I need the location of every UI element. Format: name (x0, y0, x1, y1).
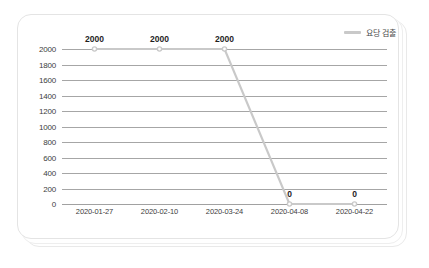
y-tick-label: 1200 (39, 107, 56, 116)
line-chart: 요당 검출 2000180016001400120010008006004002… (0, 0, 429, 268)
data-point-marker (222, 47, 226, 51)
x-tick-label: 2020-04-08 (271, 207, 308, 216)
x-tick-label: 2020-04-22 (336, 207, 373, 216)
x-tick-label: 2020-03-24 (206, 207, 243, 216)
data-point-marker (157, 47, 161, 51)
x-tick-label: 2020-01-27 (76, 207, 113, 216)
y-tick-label: 1000 (39, 122, 56, 131)
chart-legend: 요당 검출 (344, 27, 396, 38)
y-tick-label: 600 (43, 153, 56, 162)
data-point-marker (92, 47, 96, 51)
x-tick-label: 2020-02-10 (141, 207, 178, 216)
y-axis-tick-labels: 2000180016001400120010008006004002000 (20, 49, 56, 204)
data-point-marker (287, 202, 291, 206)
y-tick-label: 1600 (39, 76, 56, 85)
data-point-label: 2000 (85, 34, 104, 44)
series-markers (92, 47, 356, 206)
data-point-marker (352, 202, 356, 206)
y-tick-label: 0 (52, 200, 56, 209)
series-layer (62, 49, 387, 204)
data-point-label: 2000 (215, 34, 234, 44)
y-tick-label: 1400 (39, 91, 56, 100)
y-tick-label: 200 (43, 184, 56, 193)
y-tick-label: 1800 (39, 60, 56, 69)
y-tick-label: 400 (43, 169, 56, 178)
data-point-label: 0 (287, 189, 292, 199)
data-point-label: 0 (352, 189, 357, 199)
series-line-요당검출 (95, 49, 355, 204)
data-point-label: 2000 (150, 34, 169, 44)
legend-line-swatch-icon (344, 31, 361, 34)
y-tick-label: 2000 (39, 45, 56, 54)
x-axis-tick-labels: 2020-01-272020-02-102020-03-242020-04-08… (62, 207, 387, 221)
legend-item-label: 요당 검출 (366, 27, 396, 38)
plot-area (62, 49, 387, 204)
y-tick-label: 800 (43, 138, 56, 147)
